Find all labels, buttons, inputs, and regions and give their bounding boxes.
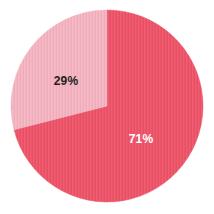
pie-chart: 71% 29% bbox=[0, 0, 214, 214]
pie-chart-canvas bbox=[0, 0, 214, 214]
pie-texture-overlay bbox=[11, 10, 203, 202]
